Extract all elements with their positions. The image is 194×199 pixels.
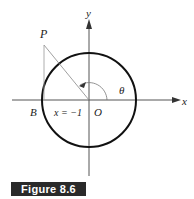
point-b-label: B (30, 106, 37, 118)
y-axis-label: y (85, 7, 91, 19)
figure-caption: Figure 8.6 (11, 182, 86, 196)
y-axis-arrow-icon (86, 19, 92, 29)
point-p-label: P (39, 27, 48, 41)
origin-label: O (94, 106, 102, 118)
x-axis-label: x (181, 95, 187, 107)
equation-label: x = −1 (53, 107, 82, 118)
theta-label: θ (119, 84, 125, 96)
unit-circle-diagram: y x P B O θ x = −1 (0, 0, 194, 199)
x-axis-arrow-icon (172, 97, 181, 103)
